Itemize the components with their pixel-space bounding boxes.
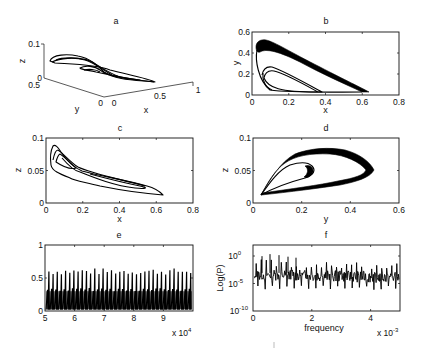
panel-d-xlabel: y [324,214,329,224]
panel-f-spectrum [254,254,399,290]
panel-e-xtick: 7 [102,313,107,323]
panel-a-x-axis [104,82,193,97]
panel-a-ztick: 0.1 [28,39,40,49]
panel-a-xtick: 1 [196,85,201,95]
panel-e-xtick: 6 [72,313,77,323]
panel-c-ylabel: z [13,167,23,172]
panel-a-y-axis [44,78,104,97]
panel-f-xtick: 0 [251,313,256,323]
panel-b-xtick: 0.6 [356,97,368,107]
panel-d-xtick: 0.2 [296,205,308,215]
panel-f-ylabel: Log(P) [215,264,225,291]
panel-b-xtick: 0 [250,97,255,107]
panel-c-attractor [51,145,163,195]
panel-c: c 0 0.2 0.4 0.6 0.8 0 0.05 0.1 x z [13,123,199,224]
panel-b-xtick: 0.8 [393,97,405,107]
panel-c-xtick: 0 [44,205,49,215]
panel-e-xtick: 9 [161,313,166,323]
panel-a-ytick: 0 [98,98,103,108]
panel-f-axes [253,245,400,311]
panel-a-ylabel: y [75,104,80,114]
panel-d: d 0 0.2 0.4 0.6 0 0.05 0.1 y z [220,123,405,224]
panel-c-ytick: 0 [39,198,44,208]
panel-d-ylabel: z [220,167,230,172]
panel-b-attractor [256,40,369,92]
panel-f-title: f [325,230,328,240]
panel-c-xlabel: x [117,214,122,224]
panel-f-ytick: 10-5 [228,278,243,289]
panel-a-xtick: 0.5 [154,91,166,101]
panel-c-ytick: 0.1 [32,133,44,143]
panel-d-xtick: 0.6 [393,205,405,215]
panel-a-zlabel: z [17,58,27,63]
panel-b-title: b [323,16,328,26]
panel-b-xtick: 0.2 [283,97,295,107]
panel-b-ytick: 0.6 [238,27,250,37]
panel-b-ytick: 0.4 [238,48,250,58]
panel-e-xscale: x 104 [172,327,192,338]
panel-e-xtick: 5 [43,313,48,323]
panel-b: b 0 0.2 0.4 0.6 0.8 0 0.2 0.4 0.6 x y [231,16,405,115]
panel-b-ytick: 0 [245,90,250,100]
panel-e-ytick: 1 [38,240,43,250]
panel-d-ytick: 0 [246,198,251,208]
panel-d-title: d [323,123,328,133]
panel-f-xlabel: frequency [304,323,344,333]
panel-d-attractor [261,148,374,195]
panel-a-xlabel: x [144,105,149,115]
panel-e-title: e [116,230,121,240]
panel-d-xtick: 0.4 [344,205,356,215]
panel-f: f 0 2 4 100 10-5 10-10 frequency Log(P) … [215,230,400,338]
panel-d-ytick: 0.05 [234,166,251,176]
panel-c-ytick: 0.05 [27,166,44,176]
panel-e: e 5 6 7 8 9 0 0.5 1 x 104 [31,230,193,338]
panel-a-attractor [50,55,155,82]
panel-b-xlabel: x [323,105,328,115]
figure-canvas: a 0.1 0 0.5 0 0 0.5 1 z y x b [0,0,421,358]
panel-c-title: c [118,123,123,133]
panel-a-title: a [113,16,118,26]
panel-e-timeseries [46,268,192,309]
panel-f-ytick: 100 [228,250,241,261]
panel-c-xtick: 0.6 [150,205,162,215]
panel-b-axes [252,32,399,95]
panel-b-ytick: 0.2 [238,69,250,79]
panel-f-xtick: 2 [309,313,314,323]
panel-e-ytick: 0.5 [31,273,43,283]
panel-b-ylabel: y [231,60,241,65]
panel-d-xtick: 0 [251,205,256,215]
panel-a: a 0.1 0 0.5 0 0 0.5 1 z y x [17,16,201,115]
panel-f-xtick: 4 [368,313,373,323]
panel-f-ytick: 10-10 [230,305,249,316]
panel-c-xtick: 0.2 [77,205,89,215]
panel-e-ytick: 0 [38,306,43,316]
panel-d-ytick: 0.1 [239,133,251,143]
panel-a-xtick: 0 [112,98,117,108]
panel-a-ytick: 0.5 [28,80,40,90]
panel-c-xtick: 0.8 [187,205,199,215]
panel-f-xscale: x 10-3 [377,327,399,338]
panel-c-axes [46,138,193,203]
panel-e-xtick: 8 [131,313,136,323]
